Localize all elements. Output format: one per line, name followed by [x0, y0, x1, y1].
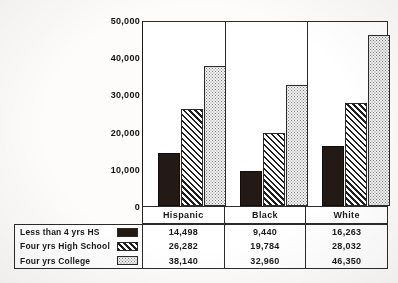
legend-label: Four yrs College: [20, 256, 114, 266]
scanned-page: 50,000 40,000 30,000 20,000 10,000 0: [0, 0, 398, 283]
table-cell: 32,960: [225, 254, 306, 268]
category-header-white: White: [306, 207, 387, 223]
category-header-row: Hispanic Black White: [142, 207, 388, 224]
legend-swatch-dots-icon: [117, 256, 138, 265]
legend-data-table: Less than 4 yrs HS Four yrs High School …: [14, 224, 388, 269]
y-tick-label-20000: 20,000: [88, 128, 140, 138]
bar-group-white: [307, 22, 389, 206]
table-cell: 46,350: [306, 254, 387, 268]
legend-row-four-yrs-high-school: Four yrs High School: [15, 239, 142, 253]
legend-label: Less than 4 yrs HS: [20, 227, 114, 237]
legend: Less than 4 yrs HS Four yrs High School …: [15, 225, 143, 268]
y-tick-label-40000: 40,000: [88, 53, 140, 63]
y-tick-label-10000: 10,000: [88, 165, 140, 175]
bar-hispanic-less-than-4-yrs-hs: [158, 153, 180, 206]
table-cell: 16,263: [306, 225, 387, 239]
table-cell: 38,140: [143, 254, 224, 268]
bar-group-black: [225, 22, 307, 206]
table-cell: 9,440: [225, 225, 306, 239]
bar-hispanic-four-yrs-high-school: [181, 109, 203, 206]
legend-row-less-than-4-yrs-hs: Less than 4 yrs HS: [15, 225, 142, 239]
y-tick-label-50000: 50,000: [88, 16, 140, 26]
y-tick-label-0: 0: [88, 202, 140, 212]
bar-white-less-than-4-yrs-hs: [322, 146, 344, 206]
table-column-black: 9,440 19,784 32,960: [225, 225, 307, 268]
legend-swatch-solid-icon: [117, 228, 138, 237]
plot-area: [142, 21, 388, 207]
bar-hispanic-four-yrs-college: [204, 66, 226, 206]
category-header-black: Black: [225, 207, 307, 223]
bar-white-four-yrs-college: [368, 35, 390, 206]
legend-swatch-hatch-icon: [117, 242, 138, 251]
bar-black-less-than-4-yrs-hs: [240, 171, 262, 206]
y-tick-label-30000: 30,000: [88, 90, 140, 100]
table-cell: 26,282: [143, 239, 224, 253]
table-column-hispanic: 14,498 26,282 38,140: [143, 225, 225, 268]
y-axis: 50,000 40,000 30,000 20,000 10,000 0: [84, 21, 140, 207]
table-column-white: 16,263 28,032 46,350: [306, 225, 387, 268]
table-cell: 19,784: [225, 239, 306, 253]
legend-row-four-yrs-college: Four yrs College: [15, 254, 142, 268]
bar-white-four-yrs-high-school: [345, 103, 367, 206]
bar-group-hispanic: [143, 22, 225, 206]
category-header-hispanic: Hispanic: [143, 207, 225, 223]
bar-black-four-yrs-college: [286, 85, 308, 206]
bar-black-four-yrs-high-school: [263, 133, 285, 206]
legend-label: Four yrs High School: [20, 241, 114, 251]
table-cell: 28,032: [306, 239, 387, 253]
table-cell: 14,498: [143, 225, 224, 239]
